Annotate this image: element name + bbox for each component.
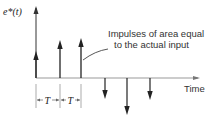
annotation-pointer <box>83 49 108 60</box>
time-axis-label: Time <box>184 83 205 94</box>
impulse-down-2 <box>124 78 129 115</box>
annotation-line-1: Impulses of area equal <box>108 28 204 39</box>
annotation-line-2: to the actual input <box>114 39 189 50</box>
y-axis-label: e*(t) <box>3 6 23 18</box>
impulse-down-3 <box>147 78 152 100</box>
impulse-up-1 <box>33 51 38 78</box>
arrow-down-icon <box>124 106 129 115</box>
impulse-up-3 <box>78 38 83 78</box>
arrow-down-icon <box>147 91 152 100</box>
period-label-2: T <box>68 95 75 106</box>
arrow-up-icon <box>33 51 38 60</box>
arrow-up-icon <box>78 38 83 47</box>
y-axis-arrow-icon <box>34 6 39 14</box>
arrow-down-icon <box>102 90 107 99</box>
impulse-down-1 <box>102 78 107 99</box>
impulse-sampling-diagram: e*(t) Time Impulses of area equal to the… <box>0 0 219 118</box>
period-label-1: T <box>45 95 52 106</box>
period-dimensions <box>36 84 81 108</box>
time-axis-arrow-icon <box>193 76 200 80</box>
impulse-up-2 <box>57 40 62 78</box>
arrow-up-icon <box>57 40 62 49</box>
